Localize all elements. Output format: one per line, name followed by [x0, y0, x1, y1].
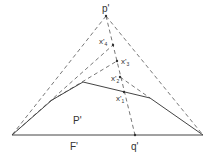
label-q: q' — [131, 141, 139, 152]
dashed-apex-left — [12, 16, 106, 135]
point-x4 — [112, 44, 114, 46]
point-apex — [105, 15, 107, 17]
dashed-apex-right — [106, 16, 203, 135]
label-x4: x'4 — [99, 37, 108, 47]
label-x2: x'2 — [111, 74, 120, 84]
label-x1: x'1 — [116, 94, 125, 104]
polygon-p — [12, 82, 203, 135]
point-q — [134, 134, 136, 136]
label-apex: p' — [102, 3, 110, 14]
label-base: F' — [70, 141, 78, 152]
point-x1 — [123, 91, 125, 93]
point-x3 — [116, 60, 118, 62]
label-x3: x'3 — [121, 57, 130, 67]
diagram-canvas: p' x'4 x'3 x'2 x'1 P' F' q' — [0, 0, 214, 160]
label-polygon: P' — [73, 115, 82, 126]
